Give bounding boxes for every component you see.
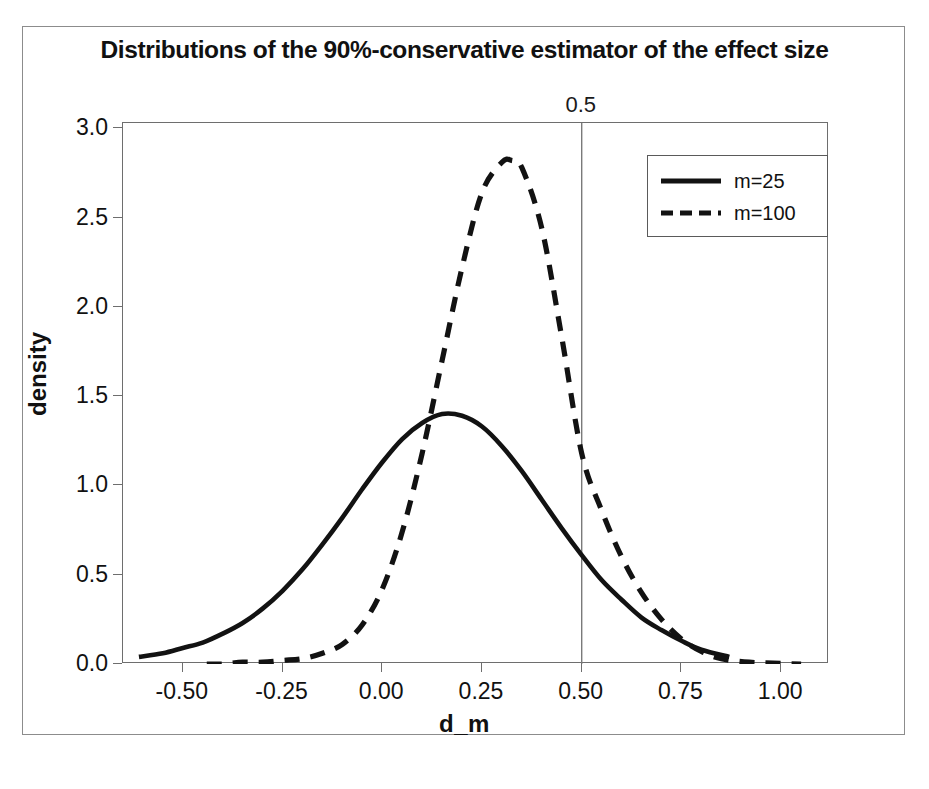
y-tick-mark: [113, 663, 122, 664]
y-tick-label: 0.5: [76, 560, 108, 587]
y-tick-mark: [113, 217, 122, 218]
x-tick-mark: [282, 663, 283, 672]
legend-label-m100: m=100: [734, 202, 796, 225]
y-tick-label: 1.5: [76, 382, 108, 409]
x-tick-mark: [182, 663, 183, 672]
y-tick-mark: [113, 574, 122, 575]
chart-title: Distributions of the 90%-conservative es…: [0, 36, 929, 64]
y-tick-label: 3.0: [76, 114, 108, 141]
y-tick-label: 1.0: [76, 471, 108, 498]
series-curve-m-25: [139, 413, 729, 656]
reference-line-label: 0.5: [565, 92, 596, 118]
x-tick-label: 0.50: [558, 678, 603, 705]
y-tick-label: 0.0: [76, 650, 108, 677]
legend-label-m25: m=25: [734, 170, 785, 193]
x-tick-label: 0.00: [359, 678, 404, 705]
y-tick-mark: [113, 484, 122, 485]
x-tick-label: -0.50: [156, 678, 208, 705]
legend-item-m100[interactable]: m=100: [660, 197, 827, 229]
x-tick-mark: [581, 663, 582, 672]
x-axis-label: d_m: [0, 710, 929, 738]
y-axis-label: density: [24, 274, 52, 474]
y-tick-mark: [113, 306, 122, 307]
x-tick-label: 0.25: [459, 678, 504, 705]
x-tick-mark: [680, 663, 681, 672]
legend-swatch-dashed: [660, 206, 722, 220]
legend-item-m25[interactable]: m=25: [660, 165, 827, 197]
x-tick-mark: [381, 663, 382, 672]
legend-swatch-solid: [660, 174, 722, 188]
chart-legend: m=25 m=100: [647, 155, 828, 237]
x-tick-mark: [780, 663, 781, 672]
y-tick-mark: [113, 127, 122, 128]
y-tick-mark: [113, 395, 122, 396]
y-tick-label: 2.0: [76, 292, 108, 319]
y-tick-label: 2.5: [76, 203, 108, 230]
x-tick-label: -0.25: [255, 678, 307, 705]
x-tick-label: 0.75: [658, 678, 703, 705]
x-tick-mark: [481, 663, 482, 672]
x-tick-label: 1.00: [758, 678, 803, 705]
